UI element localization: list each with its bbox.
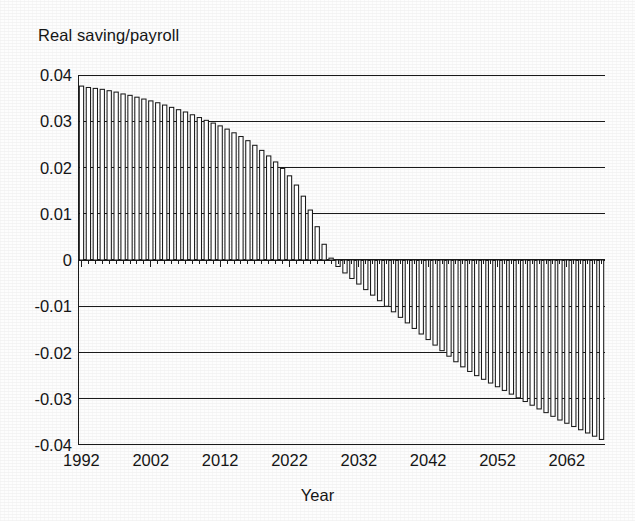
bar bbox=[169, 107, 173, 260]
x-tick-label: 2002 bbox=[132, 452, 169, 469]
x-tick-label: 2052 bbox=[479, 452, 516, 469]
bar bbox=[599, 260, 603, 439]
bar bbox=[447, 260, 451, 356]
bar bbox=[509, 260, 513, 394]
bar bbox=[482, 260, 486, 379]
bar bbox=[260, 150, 264, 260]
bar bbox=[523, 260, 527, 402]
bar bbox=[530, 260, 534, 405]
x-tick-label: 2012 bbox=[202, 452, 239, 469]
bar bbox=[315, 227, 319, 260]
x-tick-label: 2022 bbox=[271, 452, 308, 469]
bar bbox=[572, 260, 576, 427]
bar bbox=[468, 260, 472, 371]
bar bbox=[100, 89, 104, 260]
bar bbox=[225, 129, 229, 260]
bar bbox=[398, 260, 402, 317]
bar bbox=[558, 260, 562, 420]
x-axis-tick-label-group: 19922002201220222032204220522062 bbox=[0, 452, 635, 476]
x-tick-label: 2042 bbox=[410, 452, 447, 469]
bar bbox=[537, 260, 541, 409]
bar bbox=[114, 92, 118, 260]
bar bbox=[121, 94, 125, 260]
bar bbox=[79, 86, 83, 260]
x-axis-title: Year bbox=[0, 486, 635, 505]
bar bbox=[287, 176, 291, 260]
y-tick-label: -0.04 bbox=[2, 437, 72, 454]
bar bbox=[592, 260, 596, 436]
bar bbox=[579, 260, 583, 430]
y-tick-label: 0.03 bbox=[2, 113, 72, 130]
bar bbox=[322, 244, 326, 260]
y-axis-tick-label-group: 0.040.030.020.010-0.01-0.02-0.03-0.04 bbox=[0, 0, 72, 521]
bar bbox=[280, 168, 284, 260]
bar bbox=[183, 112, 187, 260]
bar bbox=[377, 260, 381, 301]
bar bbox=[267, 156, 271, 260]
bar bbox=[440, 260, 444, 351]
y-tick-label: 0.04 bbox=[2, 67, 72, 84]
bar bbox=[128, 95, 132, 260]
bar bbox=[93, 88, 97, 260]
bar bbox=[461, 260, 465, 367]
bar bbox=[135, 97, 139, 260]
bar bbox=[426, 260, 430, 340]
bar bbox=[371, 260, 375, 295]
bar bbox=[86, 87, 90, 260]
bar bbox=[364, 260, 368, 290]
bar bbox=[204, 120, 208, 260]
y-tick-label: -0.02 bbox=[2, 344, 72, 361]
bar bbox=[308, 210, 312, 260]
y-tick-label: 0.01 bbox=[2, 206, 72, 223]
figure-root: Real saving/payroll 0.040.030.020.010-0.… bbox=[0, 0, 635, 521]
bar bbox=[565, 260, 569, 423]
bar bbox=[218, 126, 222, 260]
plot-area bbox=[78, 75, 605, 445]
bar bbox=[190, 115, 194, 260]
bar bbox=[391, 260, 395, 312]
bar bbox=[176, 110, 180, 260]
bar bbox=[516, 260, 520, 398]
bar bbox=[454, 260, 458, 362]
bar bbox=[419, 260, 423, 334]
bar bbox=[502, 260, 506, 390]
bar bbox=[163, 105, 167, 260]
bar bbox=[495, 260, 499, 387]
bar bbox=[329, 258, 333, 260]
bar bbox=[405, 260, 409, 323]
bar bbox=[107, 91, 111, 260]
bar bbox=[149, 101, 153, 260]
bar bbox=[586, 260, 590, 433]
bar bbox=[301, 196, 305, 260]
bar bbox=[384, 260, 388, 306]
bar bbox=[273, 162, 277, 260]
bar bbox=[232, 133, 236, 260]
bar bbox=[294, 185, 298, 260]
x-tick-label: 2062 bbox=[549, 452, 586, 469]
x-tick-label: 1992 bbox=[63, 452, 100, 469]
bar-chart-svg bbox=[78, 75, 605, 445]
y-tick-label: 0 bbox=[2, 252, 72, 269]
y-tick-label: -0.03 bbox=[2, 391, 72, 408]
bar bbox=[253, 145, 257, 260]
bar bbox=[197, 118, 201, 260]
y-tick-label: -0.01 bbox=[2, 298, 72, 315]
bar bbox=[239, 137, 243, 260]
bar bbox=[551, 260, 555, 416]
x-tick-label: 2032 bbox=[340, 452, 377, 469]
bar bbox=[246, 141, 250, 260]
bar bbox=[544, 260, 548, 413]
bar bbox=[488, 260, 492, 383]
bar bbox=[211, 123, 215, 260]
bar bbox=[412, 260, 416, 328]
bar bbox=[142, 99, 146, 260]
bar bbox=[156, 103, 160, 260]
y-tick-label: 0.02 bbox=[2, 159, 72, 176]
bar bbox=[475, 260, 479, 376]
bar bbox=[433, 260, 437, 345]
